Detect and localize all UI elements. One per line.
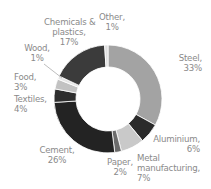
label-paper: Paper, 2% xyxy=(104,157,136,177)
label-metal-manufacturing: Metal manufacturing, 7% xyxy=(137,153,200,183)
label-steel: Steel, 33% xyxy=(160,53,202,73)
label-cement: Cement, 26% xyxy=(36,145,78,165)
label-aluminium: Aluminium, 6% xyxy=(150,134,200,154)
label-textiles: Textiles, 4% xyxy=(14,94,47,114)
label-food: Food, 3% xyxy=(14,72,36,92)
slice-steel xyxy=(108,45,162,125)
donut-slices xyxy=(54,45,162,153)
slice-chemicals-plastics xyxy=(59,45,106,85)
label-chemicals-plastics: Chemicals & plastics, 17% xyxy=(44,17,94,47)
label-other: Other, 1% xyxy=(97,12,127,32)
